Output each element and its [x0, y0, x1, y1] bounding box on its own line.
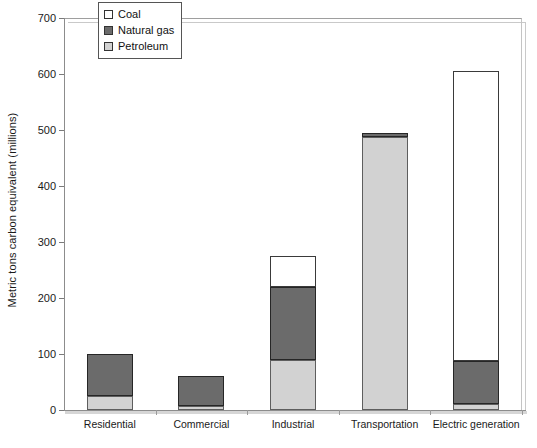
x-tick-label: Transportation — [351, 418, 418, 430]
y-tick-label: 100 — [38, 348, 56, 360]
bar-segment-petroleum — [87, 396, 133, 410]
bar-segment-coal — [453, 71, 499, 361]
legend-item: Coal — [104, 6, 174, 22]
bar-segment-natural-gas — [362, 133, 408, 137]
y-tick-mark — [59, 186, 64, 187]
y-tick: 300 — [64, 242, 65, 243]
dark-gray-square-icon — [104, 26, 113, 35]
x-tick-mark — [430, 410, 431, 415]
y-tick: 600 — [64, 74, 65, 75]
bar-industrial — [270, 256, 316, 410]
y-tick-mark — [59, 242, 64, 243]
y-tick-label: 300 — [38, 236, 56, 248]
stacked-bar-chart: Metric tons carbon equivalent (millions)… — [0, 0, 537, 448]
bar-electric-generation — [453, 71, 499, 410]
y-tick: 0 — [64, 410, 65, 411]
y-axis-title-text: Metric tons carbon equivalent (millions) — [6, 113, 18, 308]
bar-segment-petroleum — [270, 360, 316, 410]
y-axis-line — [64, 18, 65, 410]
white-square-icon — [104, 10, 113, 19]
chart-legend: CoalNatural gasPetroleum — [98, 2, 182, 59]
y-tick-mark — [59, 354, 64, 355]
y-tick-label: 500 — [38, 124, 56, 136]
x-tick-mark — [156, 410, 157, 415]
x-tick-mark — [522, 410, 523, 415]
bar-segment-natural-gas — [87, 354, 133, 396]
light-gray-square-icon — [104, 42, 113, 51]
y-tick-mark — [59, 130, 64, 131]
legend-item: Petroleum — [104, 38, 174, 54]
bar-commercial — [178, 376, 224, 410]
y-tick: 500 — [64, 130, 65, 131]
x-tick-mark — [339, 410, 340, 415]
x-axis-baseline-shadow — [65, 411, 527, 414]
y-tick-label: 400 — [38, 180, 56, 192]
bar-segment-natural-gas — [453, 361, 499, 405]
legend-item-label: Petroleum — [118, 40, 168, 52]
bar-segment-coal — [270, 256, 316, 287]
y-tick-label: 700 — [38, 12, 56, 24]
y-tick: 200 — [64, 298, 65, 299]
y-tick-label: 200 — [38, 292, 56, 304]
y-tick: 700 — [64, 18, 65, 19]
bar-segment-petroleum — [453, 404, 499, 410]
y-tick-mark — [59, 410, 64, 411]
y-tick: 100 — [64, 354, 65, 355]
legend-item-label: Natural gas — [118, 24, 174, 36]
x-tick-label: Electric generation — [433, 418, 520, 430]
y-tick-mark — [59, 74, 64, 75]
y-tick-mark — [59, 298, 64, 299]
x-tick-label: Residential — [84, 418, 136, 430]
bar-segment-petroleum — [362, 137, 408, 410]
y-tick: 400 — [64, 186, 65, 187]
bar-segment-natural-gas — [178, 376, 224, 405]
y-tick-label: 0 — [50, 404, 56, 416]
bar-transportation — [362, 133, 408, 410]
bar-residential — [87, 354, 133, 410]
x-tick-mark — [247, 410, 248, 415]
plot-area: 0100200300400500600700 ResidentialCommer… — [64, 18, 522, 410]
y-tick-mark — [59, 18, 64, 19]
y-tick-label: 600 — [38, 68, 56, 80]
x-tick-label: Industrial — [272, 418, 315, 430]
y-axis-title: Metric tons carbon equivalent (millions) — [0, 0, 24, 420]
legend-item: Natural gas — [104, 22, 174, 38]
x-tick-label: Commercial — [173, 418, 229, 430]
legend-item-label: Coal — [118, 8, 141, 20]
bar-segment-petroleum — [178, 406, 224, 410]
bar-segment-natural-gas — [270, 287, 316, 360]
